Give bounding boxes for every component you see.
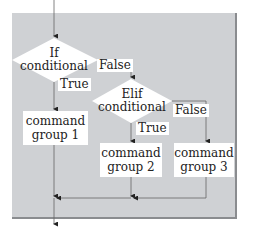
if-decision-label: If conditional [14,47,94,73]
command-group-1-line1: command [26,114,85,128]
command-group-1-box: command group 1 [23,111,88,145]
group3-exit-line [134,177,206,198]
if-true-label: True [58,78,91,91]
elif-decision-label: Elif conditional [94,88,170,114]
elif-false-label: False [173,104,209,117]
command-group-3-line2: group 3 [180,160,228,174]
elif-true-label: True [136,122,169,135]
command-group-2-line1: command [101,146,160,160]
command-group-2-line2: group 2 [107,160,155,174]
if-false-label: False [97,59,133,72]
command-group-1-line2: group 1 [32,128,80,142]
command-group-3-box: command group 3 [174,143,234,177]
if-conditional-text: conditional [14,60,94,73]
command-group-3-line1: command [174,146,233,160]
elif-conditional-text: conditional [94,101,170,114]
command-group-2-box: command group 2 [100,143,162,177]
